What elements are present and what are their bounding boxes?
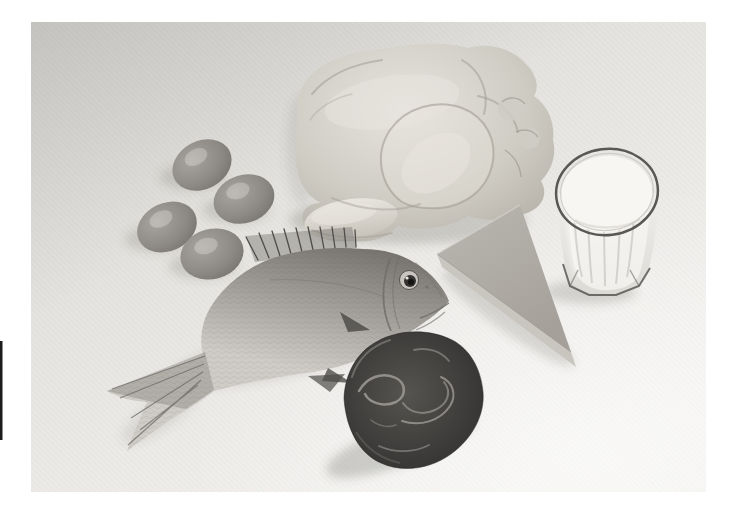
protein-foods-scene <box>0 0 731 514</box>
eye-pupil <box>408 279 414 285</box>
eye-highlight <box>405 276 408 279</box>
fish-eye <box>400 271 419 290</box>
chicken-knuckle <box>498 95 524 121</box>
scan-artifact <box>0 341 3 440</box>
food-photograph <box>0 0 731 514</box>
fish-nostril <box>426 286 429 289</box>
